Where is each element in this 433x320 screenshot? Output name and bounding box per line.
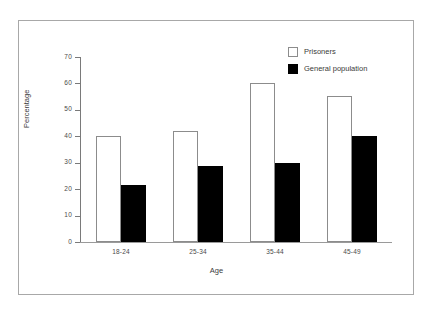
- legend-label: Prisoners: [304, 47, 336, 56]
- y-axis-tick-label: 50: [48, 105, 72, 114]
- y-axis-tick-value: 30: [50, 158, 72, 165]
- y-axis-tick-label: 60: [48, 79, 72, 88]
- y-axis-line: [80, 57, 81, 243]
- x-axis-tick-label: 45-49: [315, 248, 389, 255]
- y-axis-tick-value: 60: [50, 79, 72, 86]
- bar-general-population: [352, 136, 377, 242]
- bar-general-population: [121, 185, 146, 242]
- y-axis-tick-value: 20: [50, 185, 72, 192]
- plot-area: 010203040506070 18-2425-3435-4445-49 Per…: [0, 0, 433, 320]
- y-axis-tick-label: 0: [48, 238, 72, 247]
- x-axis-tick-label: 25-34: [161, 248, 235, 255]
- y-axis-tick-value: 10: [50, 211, 72, 218]
- y-axis-tick-label: 70: [48, 53, 72, 62]
- y-axis-tick-label: 40: [48, 132, 72, 141]
- bar-prisoners: [173, 131, 198, 242]
- y-axis-tick: [75, 216, 80, 217]
- bar-prisoners: [96, 136, 121, 242]
- y-axis-tick-label: 20: [48, 185, 72, 194]
- y-axis-tick: [75, 189, 80, 190]
- y-axis-tick-label: 30: [48, 158, 72, 167]
- y-axis-tick-value: 40: [50, 132, 72, 139]
- y-axis-tick-value: 50: [50, 105, 72, 112]
- chart-figure: 010203040506070 18-2425-3435-4445-49 Per…: [0, 0, 433, 320]
- y-axis-tick: [75, 242, 80, 243]
- y-axis-tick: [75, 57, 80, 58]
- y-axis-tick-value: 70: [50, 53, 72, 60]
- legend-label: General population: [304, 64, 367, 73]
- y-axis-tick-value: 0: [50, 238, 72, 245]
- legend-swatch-prisoners: [288, 47, 298, 57]
- chart-legend: PrisonersGeneral population: [288, 44, 367, 78]
- y-axis-title: Percentage: [22, 90, 31, 128]
- y-axis-tick: [75, 83, 80, 84]
- x-axis-tick-label: 18-24: [84, 248, 158, 255]
- x-axis-tick-label: 35-44: [238, 248, 312, 255]
- x-axis-line: [78, 242, 392, 243]
- legend-item: General population: [288, 61, 367, 76]
- x-axis-title: Age: [0, 266, 433, 275]
- legend-item: Prisoners: [288, 44, 367, 59]
- y-axis-tick: [75, 136, 80, 137]
- y-axis-tick: [75, 110, 80, 111]
- bar-prisoners: [250, 83, 275, 242]
- bar-general-population: [275, 163, 300, 242]
- legend-swatch-general-population: [288, 64, 298, 74]
- bar-general-population: [198, 166, 223, 242]
- y-axis-tick-label: 10: [48, 211, 72, 220]
- y-axis-tick: [75, 163, 80, 164]
- bar-prisoners: [327, 96, 352, 242]
